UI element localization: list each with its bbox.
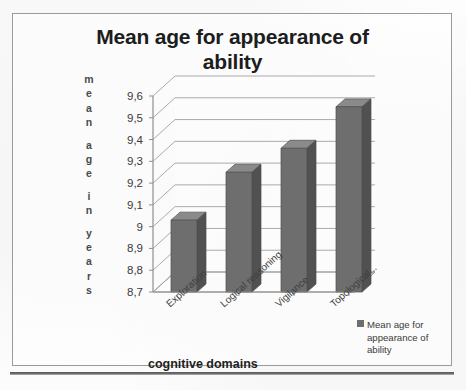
x-axis-title: cognitive domains bbox=[148, 357, 258, 371]
y-tick-label-8: 9,5 bbox=[103, 112, 143, 124]
legend-label-line-3: ability bbox=[367, 344, 452, 357]
y-tick-label-2: 8,9 bbox=[103, 242, 143, 254]
legend-label-line-1: Mean age for bbox=[367, 319, 424, 330]
bar-2 bbox=[281, 140, 316, 292]
chart-legend: Mean age for appearance of ability bbox=[357, 319, 452, 357]
y-tick-label-9: 9,6 bbox=[103, 90, 143, 102]
bar-3 bbox=[336, 99, 371, 292]
y-tick-label-6: 9,3 bbox=[103, 155, 143, 167]
legend-swatch-icon bbox=[357, 320, 364, 327]
y-tick-label-0: 8,7 bbox=[103, 286, 143, 298]
y-tick-label-7: 9,4 bbox=[103, 134, 143, 146]
y-tick-label-1: 8,8 bbox=[103, 264, 143, 276]
y-tick-label-3: 9 bbox=[103, 221, 143, 233]
legend-label-line-2: appearance of bbox=[367, 332, 452, 345]
y-tick-label-4: 9,1 bbox=[103, 199, 143, 211]
y-tick-label-5: 9,2 bbox=[103, 177, 143, 189]
